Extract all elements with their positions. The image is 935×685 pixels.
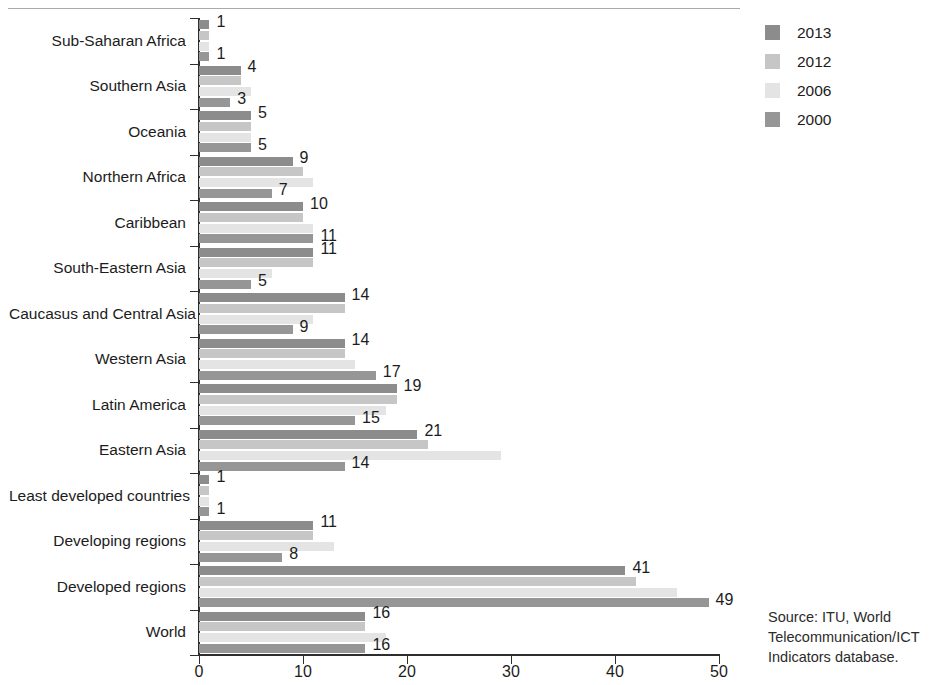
bar-2000 bbox=[199, 371, 376, 380]
bar-2013 bbox=[199, 157, 293, 166]
legend-item-2000[interactable]: 2000 bbox=[765, 105, 930, 134]
bar-2012 bbox=[199, 31, 209, 40]
bar-2012 bbox=[199, 304, 345, 313]
bar-2006 bbox=[199, 178, 313, 187]
y-axis-category-label: Southern Asia bbox=[9, 77, 199, 95]
bar-value-label: 1 bbox=[216, 468, 225, 486]
bar-2013 bbox=[199, 339, 345, 348]
bar-2012 bbox=[199, 486, 209, 495]
legend-item-2006[interactable]: 2006 bbox=[765, 76, 930, 105]
y-axis-tick bbox=[190, 610, 199, 611]
legend-item-label: 2000 bbox=[797, 111, 831, 129]
bar-2000 bbox=[199, 553, 282, 562]
y-axis-tick bbox=[190, 109, 199, 110]
y-axis-category-label: Western Asia bbox=[9, 350, 199, 368]
bar-2012 bbox=[199, 349, 345, 358]
bar-value-label: 17 bbox=[383, 363, 401, 381]
y-axis-tick bbox=[190, 155, 199, 156]
bar-2013 bbox=[199, 430, 417, 439]
bar-value-label: 1 bbox=[216, 500, 225, 518]
source-line-2: Telecommunication/ICT bbox=[768, 627, 933, 647]
legend-swatch-icon bbox=[765, 83, 780, 98]
bar-2012 bbox=[199, 167, 303, 176]
bar-2000 bbox=[199, 416, 355, 425]
bar-value-label: 8 bbox=[289, 545, 298, 563]
bar-2000 bbox=[199, 98, 230, 107]
x-axis-tick-label: 20 bbox=[398, 663, 416, 681]
bar-2006 bbox=[199, 406, 386, 415]
x-axis-tick-label: 40 bbox=[606, 663, 624, 681]
x-axis-tick-label: 50 bbox=[710, 663, 728, 681]
bar-value-label: 16 bbox=[372, 604, 390, 622]
bar-value-label: 5 bbox=[258, 136, 267, 154]
y-axis-category-labels: Sub-Saharan AfricaSouthern AsiaOceaniaNo… bbox=[0, 0, 199, 685]
legend-item-label: 2012 bbox=[797, 53, 831, 71]
bar-2006 bbox=[199, 542, 334, 551]
y-axis-tick bbox=[190, 200, 199, 201]
bar-2000 bbox=[199, 189, 272, 198]
bar-value-label: 5 bbox=[258, 272, 267, 290]
bar-value-label: 7 bbox=[279, 181, 288, 199]
y-axis-category-label: World bbox=[9, 623, 199, 641]
bar-value-label: 14 bbox=[352, 454, 370, 472]
y-axis-category-label: Sub-Saharan Africa bbox=[9, 32, 199, 50]
y-axis-tick bbox=[190, 428, 199, 429]
y-axis-tick bbox=[190, 564, 199, 565]
source-line-3: Indicators database. bbox=[768, 647, 933, 667]
legend-item-label: 2013 bbox=[797, 24, 831, 42]
y-axis-category-label: Developed regions bbox=[9, 578, 199, 596]
bar-value-label: 10 bbox=[310, 195, 328, 213]
bar-2012 bbox=[199, 395, 397, 404]
bar-2012 bbox=[199, 258, 313, 267]
bar-value-label: 14 bbox=[352, 331, 370, 349]
bar-2013 bbox=[199, 384, 397, 393]
x-axis-tick-label: 0 bbox=[195, 663, 204, 681]
y-axis-category-label: South-Eastern Asia bbox=[9, 259, 199, 277]
y-axis-category-label: Northern Africa bbox=[9, 168, 199, 186]
plot-area: 1143559710111151491417191521141111841491… bbox=[199, 18, 719, 655]
legend-item-label: 2006 bbox=[797, 82, 831, 100]
legend-item-2013[interactable]: 2013 bbox=[765, 18, 930, 47]
legend-swatch-icon bbox=[765, 25, 780, 40]
bar-2000 bbox=[199, 143, 251, 152]
y-axis-category-label: Least developed countries bbox=[9, 487, 199, 505]
x-axis-tick-label: 30 bbox=[502, 663, 520, 681]
x-axis-tick-label: 10 bbox=[294, 663, 312, 681]
bar-2013 bbox=[199, 202, 303, 211]
bar-value-label: 1 bbox=[216, 45, 225, 63]
bar-chart: Sub-Saharan AfricaSouthern AsiaOceaniaNo… bbox=[0, 0, 760, 685]
y-axis-tick bbox=[190, 655, 199, 656]
y-axis-category-label: Caribbean bbox=[9, 214, 199, 232]
bar-2012 bbox=[199, 577, 636, 586]
bar-2006 bbox=[199, 224, 313, 233]
bar-2000 bbox=[199, 52, 209, 61]
bar-value-label: 41 bbox=[632, 559, 650, 577]
legend-item-2012[interactable]: 2012 bbox=[765, 47, 930, 76]
bar-value-label: 4 bbox=[248, 58, 257, 76]
y-axis-category-label: Eastern Asia bbox=[9, 441, 199, 459]
y-axis-tick bbox=[190, 246, 199, 247]
bar-2006 bbox=[199, 588, 677, 597]
y-axis-tick bbox=[190, 18, 199, 19]
y-axis-tick bbox=[190, 519, 199, 520]
y-axis-tick bbox=[190, 382, 199, 383]
y-axis-tick bbox=[190, 473, 199, 474]
bar-value-label: 5 bbox=[258, 104, 267, 122]
bar-2013 bbox=[199, 566, 625, 575]
legend-swatch-icon bbox=[765, 54, 780, 69]
bar-value-label: 11 bbox=[320, 513, 337, 531]
bar-2006 bbox=[199, 451, 501, 460]
bar-2013 bbox=[199, 111, 251, 120]
source-line-1: Source: ITU, World bbox=[768, 607, 933, 627]
bar-value-label: 21 bbox=[424, 422, 442, 440]
y-axis-category-label: Caucasus and Central Asia bbox=[9, 305, 199, 323]
y-axis-category-label: Latin America bbox=[9, 396, 199, 414]
bar-2000 bbox=[199, 507, 209, 516]
bar-2000 bbox=[199, 280, 251, 289]
source-note: Source: ITU, World Telecommunication/ICT… bbox=[768, 607, 933, 667]
bar-2006 bbox=[199, 42, 209, 51]
bar-2012 bbox=[199, 122, 251, 131]
bar-2000 bbox=[199, 598, 709, 607]
bar-value-label: 1 bbox=[216, 13, 225, 31]
bar-2012 bbox=[199, 531, 313, 540]
